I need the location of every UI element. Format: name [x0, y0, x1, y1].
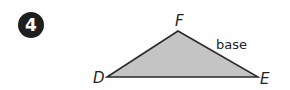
vertex-label-f: F — [175, 12, 184, 30]
vertex-label-e: E — [260, 70, 270, 88]
triangle-diagram: D F E base — [0, 0, 290, 90]
vertex-label-d: D — [93, 69, 105, 87]
side-label-base: base — [216, 37, 247, 52]
